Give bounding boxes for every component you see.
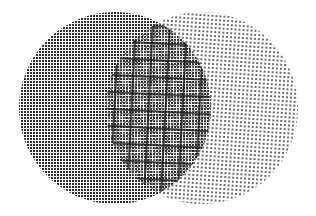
- venn-diagram: [0, 0, 316, 216]
